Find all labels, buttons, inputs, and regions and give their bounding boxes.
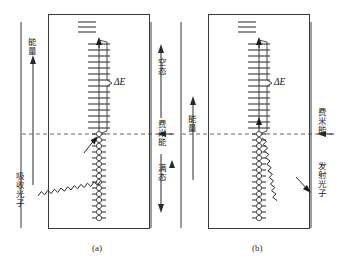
- panel-b-electron-marker-top: [256, 37, 262, 48]
- panel-b-energy-arrow-tail: [169, 160, 175, 168]
- panel-a-excited-electron-marker: [96, 37, 102, 48]
- panel-b-emitted-photon-wave: [262, 138, 311, 201]
- panel-b-energy-arrow: [190, 96, 196, 180]
- diagram-vector-layer: [0, 0, 341, 270]
- panel-a-energy-axis-label: 能量: [26, 38, 35, 56]
- panel-a-caption: (a): [92, 243, 102, 253]
- panel-b-fermi-label: 费米能: [316, 108, 325, 135]
- panel-b-top-levels: [238, 22, 256, 32]
- panel-a-photon-label: 吸收光子: [14, 172, 23, 208]
- panel-b-energy-axis-label: 能量: [186, 115, 195, 133]
- panel-a-delta-e-label: ΔE: [114, 77, 125, 87]
- panel-a-delta-brace: [99, 40, 112, 134]
- panel-a-fermi-label: 费米能: [156, 120, 165, 147]
- panel-a-filled-state-levels: [92, 131, 106, 220]
- panel-b-photon-label: 发射光子: [316, 162, 325, 198]
- panel-a-filled-states-arrow: [158, 154, 164, 213]
- panel-a-empty-states-label: 空态: [156, 58, 165, 76]
- panel-b-caption: (b): [252, 243, 263, 253]
- panel-a-absorbed-photon-wave: [38, 136, 101, 196]
- panel-a-top-levels: [78, 22, 96, 32]
- figure-root: 能量 吸收光子 ΔE 空态 费米能 满态 (a) 能量 ΔE 费米能 发射光子 …: [0, 0, 341, 270]
- panel-a-filled-states-label: 满态: [156, 164, 165, 182]
- panel-b-delta-e-label: ΔE: [274, 77, 285, 87]
- panel-b-delta-brace: [259, 40, 272, 134]
- panel-a-empty-states-arrow: [158, 44, 164, 118]
- panel-a-energy-arrow: [30, 55, 36, 185]
